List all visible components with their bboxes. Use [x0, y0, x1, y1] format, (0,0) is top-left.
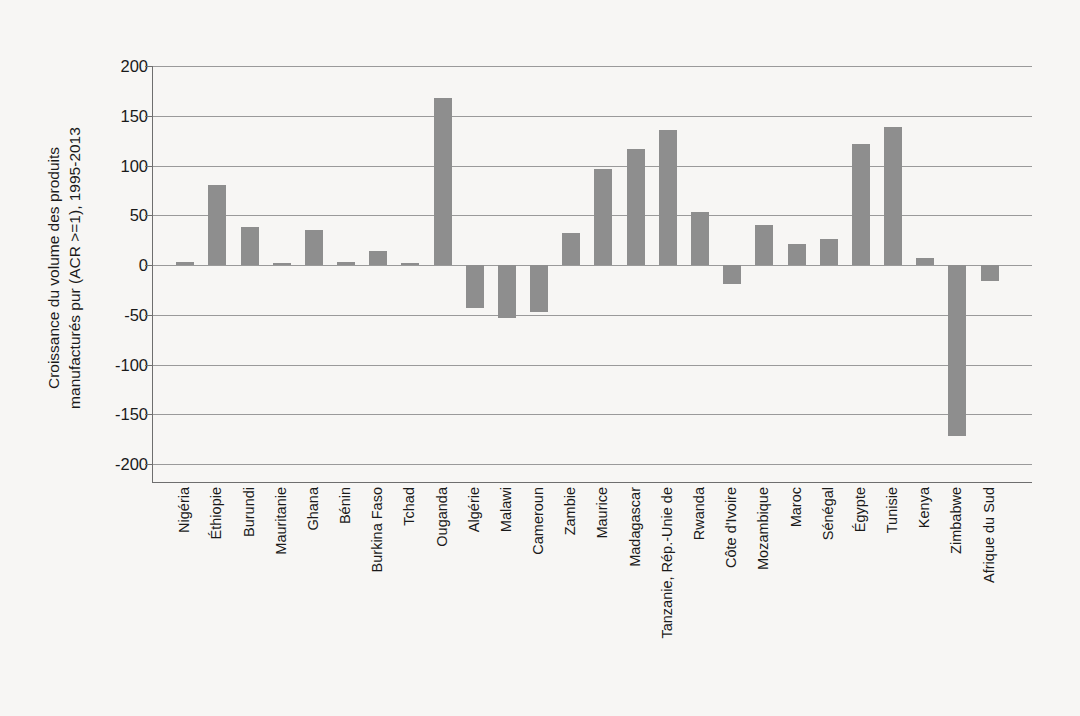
x-tick-label: Éthiopie: [216, 487, 231, 539]
x-tick-label: Madagascar: [635, 487, 650, 567]
bar: [820, 239, 838, 265]
x-tick-label: Zambie: [570, 487, 585, 535]
y-tick-mark--200: [145, 464, 153, 465]
x-tick-label-text: Burkina Faso: [370, 487, 385, 572]
y-tick-mark-50: [145, 215, 153, 216]
x-tick-label: Côte d'Ivoire: [731, 487, 746, 568]
x-tick-label: Ghana: [313, 487, 328, 531]
x-tick-label: Nigéria: [184, 487, 199, 533]
bar: [434, 98, 452, 265]
plot-area: [152, 66, 1032, 483]
x-tick-label-text: Mauritanie: [273, 487, 288, 555]
y-tick-label: -200: [115, 455, 148, 474]
bar: [208, 185, 226, 265]
bar: [788, 244, 806, 265]
x-tick-label: Algérie: [474, 487, 489, 532]
bar: [723, 265, 741, 284]
y-axis-title-text: Croissance du volume des produits manufa…: [43, 53, 86, 483]
x-tick-label-text: Afrique du Sud: [981, 487, 996, 583]
y-tick-label: 100: [120, 156, 148, 175]
bar: [401, 263, 419, 265]
bar: [981, 265, 999, 281]
bar-series: [153, 66, 1032, 482]
x-tick-label-text: Bénin: [338, 487, 353, 524]
bar: [530, 265, 548, 312]
x-tick-label: Maroc: [796, 487, 811, 527]
x-tick-label-text: Tunisie: [885, 487, 900, 533]
y-tick-mark-200: [145, 66, 153, 67]
bar: [369, 251, 387, 265]
x-tick-label-text: Égypte: [853, 487, 868, 532]
y-tick-mark--50: [145, 315, 153, 316]
y-tick-mark--150: [145, 414, 153, 415]
x-tick-label-text: Mozambique: [756, 487, 771, 570]
x-tick-label-text: Algérie: [467, 487, 482, 532]
y-axis-title-line-2: manufacturés pur (ACR >=1), 1995-2013: [64, 53, 85, 483]
bar: [884, 127, 902, 265]
x-tick-label-text: Éthiopie: [209, 487, 224, 539]
x-tick-label: Tchad: [409, 487, 424, 526]
y-tick-mark--100: [145, 365, 153, 366]
x-tick-label: Zimbabwe: [956, 487, 971, 554]
x-tick-label: Bénin: [345, 487, 360, 524]
bar: [273, 263, 291, 265]
bar: [498, 265, 516, 318]
x-tick-label-text: Maroc: [788, 487, 803, 527]
x-tick-label-text: Tchad: [402, 487, 417, 526]
x-tick-label-text: Zambie: [563, 487, 578, 535]
bar: [305, 230, 323, 265]
y-tick-label: 150: [120, 106, 148, 125]
x-tick-label: Malawi: [506, 487, 521, 532]
bar: [337, 262, 355, 265]
bar: [948, 265, 966, 436]
x-tick-label: Kenya: [924, 487, 939, 528]
y-tick-mark-100: [145, 166, 153, 167]
y-tick-label: 200: [120, 57, 148, 76]
bar: [691, 212, 709, 265]
x-tick-label: Sénégal: [828, 487, 843, 540]
bar: [852, 144, 870, 265]
bar: [176, 262, 194, 265]
bar: [659, 130, 677, 265]
bar: [562, 233, 580, 265]
chart-figure: Croissance du volume des produits manufa…: [0, 0, 1080, 716]
x-tick-label: Afrique du Sud: [989, 487, 1004, 583]
x-tick-label-text: Maurice: [595, 487, 610, 539]
x-tick-label: Rwanda: [699, 487, 714, 540]
x-tick-label-text: Ghana: [306, 487, 321, 531]
x-tick-label: Burkina Faso: [377, 487, 392, 572]
x-tick-label: Burundi: [249, 487, 264, 537]
x-tick-label-text: Nigéria: [177, 487, 192, 533]
x-tick-label: Mauritanie: [281, 487, 296, 555]
x-tick-label-text: Cameroun: [531, 487, 546, 555]
x-tick-label: Cameroun: [538, 487, 553, 555]
x-tick-label: Tanzanie, Rép.-Unie de: [667, 487, 682, 639]
y-tick-mark-150: [145, 116, 153, 117]
x-tick-label-text: Côte d'Ivoire: [724, 487, 739, 568]
x-tick-label-text: Tanzanie, Rép.-Unie de: [660, 487, 675, 639]
x-axis-tick-labels: NigériaÉthiopieBurundiMauritanieGhanaBén…: [152, 487, 1032, 687]
bar: [241, 227, 259, 265]
bar: [466, 265, 484, 308]
y-tick-label: -150: [115, 405, 148, 424]
bar: [755, 225, 773, 265]
y-tick-mark-0: [145, 265, 153, 266]
x-tick-label: Maurice: [602, 487, 617, 539]
x-tick-label: Ouganda: [442, 487, 457, 547]
x-tick-label: Tunisie: [892, 487, 907, 533]
y-axis-tick-labels: 200150100500-50-100-150-200: [100, 0, 148, 716]
bar: [627, 149, 645, 265]
y-axis-title: Croissance du volume des produits manufa…: [18, 48, 110, 488]
x-tick-label-text: Ouganda: [434, 487, 449, 547]
x-tick-label: Égypte: [860, 487, 875, 532]
x-tick-label-text: Burundi: [241, 487, 256, 537]
y-tick-label: -100: [115, 355, 148, 374]
x-tick-label-text: Malawi: [499, 487, 514, 532]
x-tick-label-text: Sénégal: [820, 487, 835, 540]
x-tick-label-text: Zimbabwe: [949, 487, 964, 554]
x-tick-label-text: Madagascar: [627, 487, 642, 567]
x-tick-label-text: Kenya: [917, 487, 932, 528]
x-tick-label-text: Rwanda: [692, 487, 707, 540]
bar: [916, 258, 934, 265]
x-tick-label: Mozambique: [763, 487, 778, 570]
